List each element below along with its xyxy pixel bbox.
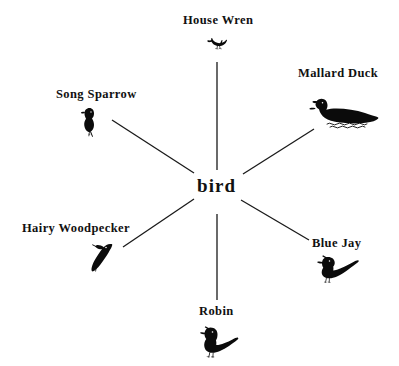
spoke-line-mallard-duck [243, 129, 314, 174]
robin-silhouette-icon [200, 326, 240, 358]
spoke-line-blue-jay [241, 200, 309, 240]
song-sparrow-silhouette-icon [80, 107, 102, 137]
node-label-blue-jay: Blue Jay [312, 237, 361, 250]
blue-jay-silhouette-icon [316, 255, 360, 285]
bird-concept-map: House Wren Mallard Duck [0, 0, 399, 366]
node-label-house-wren: House Wren [183, 14, 253, 27]
node-label-robin: Robin [199, 305, 234, 318]
spoke-line-hairy-woodpecker [123, 199, 194, 247]
hairy-woodpecker-silhouette-icon [86, 242, 118, 278]
mallard-duck-silhouette-icon [309, 95, 381, 129]
node-label-song-sparrow: Song Sparrow [56, 88, 137, 101]
node-label-hairy-woodpecker: Hairy Woodpecker [22, 222, 130, 235]
house-wren-bird-silhouette-icon [207, 36, 229, 54]
node-label-mallard-duck: Mallard Duck [298, 67, 378, 80]
center-concept-label: bird [192, 174, 241, 197]
spoke-line-song-sparrow [112, 120, 194, 173]
